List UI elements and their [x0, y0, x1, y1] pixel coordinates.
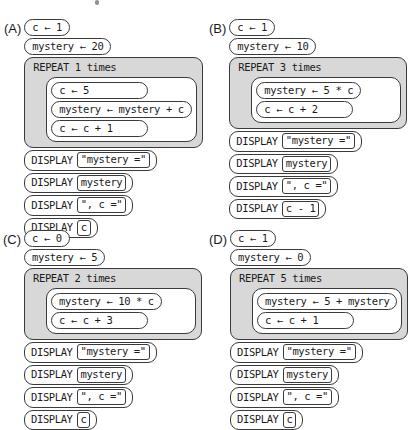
- display-block: DISPLAY mystery: [24, 365, 133, 386]
- display-keyword: DISPLAY: [237, 391, 278, 404]
- display-keyword: DISPLAY: [237, 368, 278, 381]
- assignment-block: c ← c + 2: [256, 101, 353, 118]
- option-c-code: c ← 0 mystery ← 5 REPEAT 2 times mystery…: [24, 230, 202, 430]
- option-d-code: c ← 1 mystery ← 0 REPEAT 5 times mystery…: [230, 230, 408, 430]
- display-keyword: DISPLAY: [31, 176, 72, 189]
- assignment-block: mystery ← 5 + mystery: [257, 293, 397, 310]
- display-block: DISPLAY ", c =": [230, 387, 339, 408]
- repeat-header: REPEAT 5 times: [236, 271, 402, 288]
- assignment-block: mystery ← mystery + c: [51, 101, 191, 118]
- display-keyword: DISPLAY: [237, 346, 278, 359]
- option-b: (B) c ← 1 mystery ← 10 REPEAT 3 times my…: [209, 19, 407, 219]
- option-a-code: c ← 1 mystery ← 20 REPEAT 1 times c ← 5 …: [24, 19, 202, 238]
- option-b-label: (B): [209, 19, 226, 36]
- display-keyword: DISPLAY: [236, 135, 277, 148]
- display-keyword: DISPLAY: [236, 180, 277, 193]
- display-block: DISPLAY mystery: [230, 365, 339, 386]
- repeat-header: REPEAT 2 times: [30, 271, 196, 288]
- display-expression: mystery: [283, 367, 332, 383]
- display-block: DISPLAY c - 1: [229, 199, 326, 220]
- assignment-block: c ← 1: [230, 230, 276, 247]
- assignment-block: c ← c + 1: [257, 312, 354, 329]
- option-c: (C) c ← 0 mystery ← 5 REPEAT 2 times mys…: [3, 230, 202, 430]
- assignment-block: c ← c + 3: [51, 312, 148, 329]
- display-keyword: DISPLAY: [31, 391, 72, 404]
- display-block: DISPLAY ", c =": [24, 387, 133, 408]
- assignment-block: mystery ← 0: [230, 249, 311, 266]
- repeat-block: REPEAT 3 times mystery ← 5 * c c ← c + 2: [229, 57, 407, 129]
- assignment-block: mystery ← 10 * c: [51, 293, 162, 310]
- display-keyword: DISPLAY: [236, 202, 277, 215]
- display-block: DISPLAY c: [230, 410, 303, 430]
- assignment-block: c ← c + 1: [51, 120, 148, 137]
- display-block: DISPLAY ", c =": [229, 176, 338, 197]
- display-expression: "mystery =": [77, 152, 150, 168]
- display-keyword: DISPLAY: [31, 368, 72, 381]
- assignment-block: c ← 0: [24, 230, 70, 247]
- assignment-block: mystery ← 20: [24, 38, 111, 55]
- repeat-body: c ← 5 mystery ← mystery + c c ← c + 1: [46, 77, 196, 142]
- repeat-body: mystery ← 5 * c c ← c + 2: [251, 77, 401, 123]
- display-expression: ", c =": [282, 178, 331, 194]
- assignment-block: mystery ← 5: [24, 249, 105, 266]
- display-block: DISPLAY ", c =": [24, 195, 133, 216]
- repeat-block: REPEAT 2 times mystery ← 10 * c c ← c + …: [24, 268, 202, 340]
- display-keyword: DISPLAY: [31, 413, 72, 426]
- display-expression: ", c =": [77, 389, 126, 405]
- display-keyword: DISPLAY: [31, 199, 72, 212]
- display-expression: mystery: [282, 156, 331, 172]
- display-expression: mystery: [77, 367, 126, 383]
- display-expression: ", c =": [283, 389, 332, 405]
- display-keyword: DISPLAY: [31, 346, 72, 359]
- display-expression: ", c =": [77, 197, 126, 213]
- repeat-block: REPEAT 5 times mystery ← 5 + mystery c ←…: [230, 268, 408, 340]
- display-block: DISPLAY "mystery =": [229, 131, 362, 152]
- option-a: (A) c ← 1 mystery ← 20 REPEAT 1 times c …: [4, 19, 203, 238]
- option-c-label: (C): [3, 230, 21, 247]
- scan-artifact-mark: [95, 0, 99, 5]
- assignment-block: c ← 5: [51, 82, 148, 99]
- repeat-body: mystery ← 10 * c c ← c + 3: [46, 288, 196, 334]
- display-expression: "mystery =": [282, 133, 355, 149]
- option-d: (D) c ← 1 mystery ← 0 REPEAT 5 times mys…: [209, 230, 408, 430]
- display-block: DISPLAY mystery: [24, 173, 133, 194]
- display-expression: c: [77, 412, 91, 428]
- display-expression: c: [283, 412, 297, 428]
- display-expression: c - 1: [282, 201, 320, 217]
- repeat-block: REPEAT 1 times c ← 5 mystery ← mystery +…: [24, 57, 202, 148]
- assignment-block: c ← 1: [229, 19, 275, 36]
- option-a-label: (A): [4, 19, 21, 36]
- display-keyword: DISPLAY: [237, 413, 278, 426]
- display-block: DISPLAY "mystery =": [230, 342, 363, 363]
- option-b-code: c ← 1 mystery ← 10 REPEAT 3 times myster…: [229, 19, 407, 219]
- display-keyword: DISPLAY: [236, 157, 277, 170]
- display-block: DISPLAY c: [24, 410, 97, 430]
- display-block: DISPLAY "mystery =": [24, 150, 157, 171]
- display-block: DISPLAY mystery: [229, 154, 338, 175]
- display-expression: "mystery =": [283, 344, 356, 360]
- display-expression: mystery: [77, 175, 126, 191]
- display-keyword: DISPLAY: [31, 154, 72, 167]
- repeat-header: REPEAT 1 times: [30, 60, 196, 77]
- assignment-block: c ← 1: [24, 19, 70, 36]
- option-d-label: (D): [209, 230, 227, 247]
- display-block: DISPLAY "mystery =": [24, 342, 157, 363]
- display-expression: "mystery =": [77, 344, 150, 360]
- repeat-header: REPEAT 3 times: [235, 60, 401, 77]
- repeat-body: mystery ← 5 + mystery c ← c + 1: [252, 288, 402, 334]
- assignment-block: mystery ← 10: [229, 38, 316, 55]
- assignment-block: mystery ← 5 * c: [256, 82, 361, 99]
